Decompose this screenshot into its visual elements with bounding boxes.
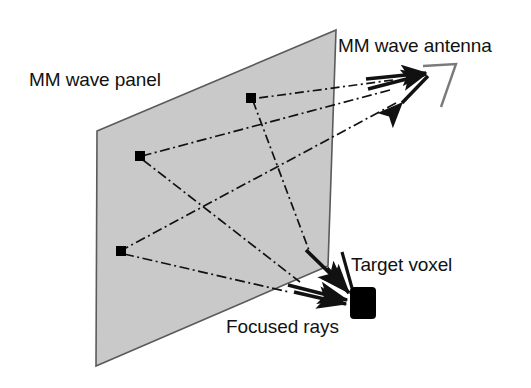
panel-reflector-element-top [246,93,256,103]
target-voxel-group [350,287,376,319]
panel-reflector-element-middle [135,151,145,161]
label-mm-wave-antenna: MM wave antenna [338,35,492,56]
mm-wave-imaging-diagram: MM wave panel MM wave antenna Target vox… [0,0,531,388]
target-voxel-icon [350,287,376,319]
horn-antenna-icon [423,64,456,107]
label-target-voxel: Target voxel [351,254,452,275]
antenna-converging-arrows-group [366,73,428,103]
panel-reflector-element-bottom [116,246,126,256]
focused-ray-2 [327,268,349,293]
diagram-canvas: MM wave panel MM wave antenna Target vox… [0,0,531,388]
label-focused-rays: Focused rays [226,316,339,337]
label-mm-wave-panel: MM wave panel [29,69,161,90]
